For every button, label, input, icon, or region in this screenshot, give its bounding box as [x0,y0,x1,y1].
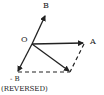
label-reversed: (REVERSED) [1,86,48,93]
label-a: A [90,38,96,46]
vector-neg-b-arrow [18,44,32,71]
vector-b-arrow [32,16,45,44]
label-origin: O [21,36,28,44]
vector-a-arrow [32,43,83,44]
label-neg-b: - B [10,76,20,83]
dashed-side-line [70,44,84,72]
resultant-arrow [32,44,69,71]
label-b: B [43,2,49,10]
